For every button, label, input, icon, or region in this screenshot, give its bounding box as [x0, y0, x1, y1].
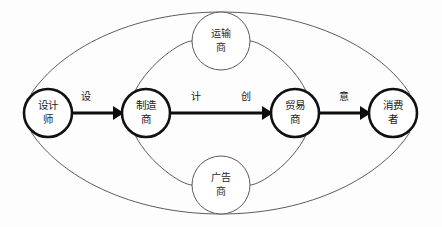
main-node-trader-label-line1: 贸易	[285, 100, 305, 111]
curve-designer-to-advertiser	[31, 132, 221, 214]
curve-advertiser-to-trader	[250, 135, 306, 185]
aux-node-transporter-label-line2: 商	[216, 41, 226, 53]
flow-edge-designer-to-manufacturer[interactable]	[72, 106, 124, 120]
main-node-designer-label-line2: 师	[43, 113, 53, 125]
main-node-designer[interactable]: 设计 师	[24, 89, 72, 137]
flow-edge-trader-to-consumer[interactable]	[319, 106, 371, 120]
main-node-consumer-label-line1: 消费	[383, 99, 403, 111]
curve-designer-to-transporter	[31, 12, 221, 94]
edge-label-chuang: 创	[241, 90, 251, 102]
aux-node-advertiser-circle	[192, 156, 250, 214]
main-node-designer-circle	[24, 89, 72, 137]
main-node-manufacturer-label-line2: 商	[141, 113, 151, 125]
main-node-manufacturer-circle	[122, 89, 170, 137]
edge-label-ji: 计	[191, 90, 201, 102]
curve-manufacturer-to-transporter	[135, 41, 192, 91]
edge-label-she: 设	[81, 91, 91, 102]
main-node-trader-circle	[271, 89, 319, 137]
curve-manufacturer-to-advertiser	[135, 135, 192, 185]
aux-node-transporter-circle	[192, 12, 250, 70]
main-node-manufacturer[interactable]: 制造 商	[122, 89, 170, 137]
main-node-trader-label-line2: 商	[290, 113, 300, 125]
aux-node-transporter-label-line1: 运输	[211, 27, 231, 39]
curve-transporter-to-trader	[250, 41, 306, 91]
supply-chain-diagram: 运输 商 广告 商 设计 师 制造 商	[0, 0, 442, 227]
aux-node-advertiser[interactable]: 广告 商	[192, 156, 250, 214]
aux-node-advertiser-label-line1: 广告	[211, 171, 231, 183]
curve-transporter-to-consumer	[221, 12, 410, 94]
main-node-consumer-circle	[369, 89, 417, 137]
main-node-consumer-label-line2: 者	[388, 114, 398, 125]
main-node-manufacturer-label-line1: 制造	[136, 99, 157, 111]
edge-label-yi: 意	[339, 90, 349, 102]
flow-edge-manufacturer-to-trader[interactable]	[170, 106, 273, 120]
curve-advertiser-to-consumer	[221, 132, 410, 214]
diagram-canvas: 运输 商 广告 商 设计 师 制造 商	[0, 0, 442, 227]
main-node-trader[interactable]: 贸易 商	[271, 89, 319, 137]
main-node-designer-label-line1: 设计	[38, 99, 59, 111]
main-node-consumer[interactable]: 消费 者	[369, 89, 417, 137]
aux-node-transporter[interactable]: 运输 商	[192, 12, 250, 70]
aux-node-advertiser-label-line2: 商	[216, 185, 226, 197]
